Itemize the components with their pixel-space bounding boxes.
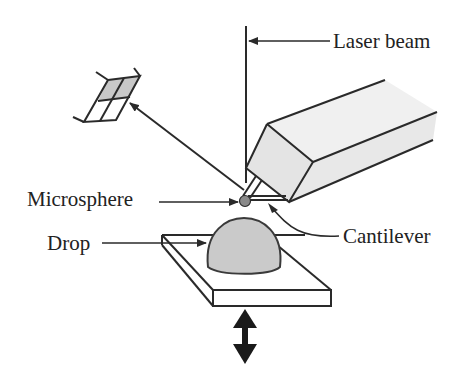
- label-laser-beam: Laser beam: [333, 29, 430, 53]
- piezo-motion-arrow: [233, 309, 257, 364]
- laser-beam-callout: Laser beam: [249, 29, 430, 53]
- drop: [208, 218, 281, 274]
- label-cantilever: Cantilever: [343, 224, 430, 248]
- afm-diagram: Laser beam Microsphere: [0, 0, 475, 387]
- label-microsphere: Microsphere: [27, 187, 133, 211]
- microsphere-callout: Microsphere: [27, 187, 238, 211]
- cantilever-holder: [246, 80, 437, 202]
- photodetector: [73, 68, 140, 122]
- microsphere: [240, 196, 251, 207]
- reflected-beam: [130, 103, 244, 190]
- label-drop: Drop: [47, 231, 90, 255]
